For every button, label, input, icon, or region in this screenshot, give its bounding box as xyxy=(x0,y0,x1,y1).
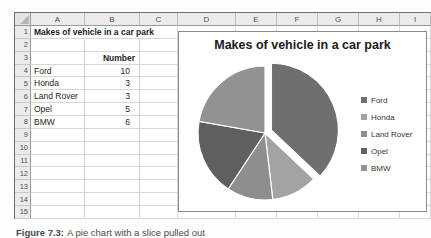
cell-B3[interactable]: Number xyxy=(85,52,140,65)
row-header-10[interactable]: 10 xyxy=(15,142,31,155)
legend-label: BMW xyxy=(371,164,391,173)
cell-A14[interactable] xyxy=(31,193,85,206)
row-header-2[interactable]: 2 xyxy=(15,39,31,52)
cell-A8[interactable]: BMW xyxy=(31,116,85,129)
cell-C3[interactable] xyxy=(140,52,178,65)
chart-legend[interactable]: FordHondaLand RoverOpelBMW xyxy=(361,96,412,172)
select-all-corner[interactable] xyxy=(15,13,31,26)
cell-B15[interactable] xyxy=(85,206,140,219)
row-header-5[interactable]: 5 xyxy=(15,77,31,90)
cell-C8[interactable] xyxy=(140,116,178,129)
legend-item-ford[interactable]: Ford xyxy=(361,96,412,104)
pie-slice-bmw[interactable] xyxy=(199,66,265,133)
cell-C5[interactable] xyxy=(140,77,178,90)
legend-swatch-icon xyxy=(361,131,367,137)
cell-B5[interactable]: 3 xyxy=(85,77,140,90)
cell-C10[interactable] xyxy=(140,142,178,155)
chart-object[interactable]: Makes of vehicle in a car park FordHonda… xyxy=(178,31,427,212)
legend-swatch-icon xyxy=(361,165,367,171)
column-header-D[interactable]: D xyxy=(178,13,236,26)
cell-B7[interactable]: 5 xyxy=(85,103,140,116)
row-header-9[interactable]: 9 xyxy=(15,129,31,142)
cell-B8[interactable]: 6 xyxy=(85,116,140,129)
row-header-14[interactable]: 14 xyxy=(15,193,31,206)
legend-item-land-rover[interactable]: Land Rover xyxy=(361,130,412,138)
cell-C11[interactable] xyxy=(140,155,178,168)
cell-B10[interactable] xyxy=(85,142,140,155)
column-header-F[interactable]: F xyxy=(277,13,318,26)
cell-B4[interactable]: 10 xyxy=(85,65,140,78)
cell-C12[interactable] xyxy=(140,167,178,180)
figure-caption-number: Figure 7.3: xyxy=(16,227,64,238)
cell-A7[interactable]: Opel xyxy=(31,103,85,116)
cell-C13[interactable] xyxy=(140,180,178,193)
cell-A10[interactable] xyxy=(31,142,85,155)
cell-A12[interactable] xyxy=(31,167,85,180)
cell-C4[interactable] xyxy=(140,65,178,78)
figure-caption-text: A pie chart with a slice pulled out xyxy=(67,227,205,238)
column-header-B[interactable]: B xyxy=(85,13,140,26)
row-header-7[interactable]: 7 xyxy=(15,103,31,116)
column-header-I[interactable]: I xyxy=(400,13,431,26)
row-header-8[interactable]: 8 xyxy=(15,116,31,129)
row-header-13[interactable]: 13 xyxy=(15,180,31,193)
column-header-H[interactable]: H xyxy=(359,13,400,26)
cell-B6[interactable]: 3 xyxy=(85,90,140,103)
legend-label: Honda xyxy=(371,113,395,122)
legend-swatch-icon xyxy=(361,97,367,103)
legend-label: Opel xyxy=(371,147,388,156)
cell-B12[interactable] xyxy=(85,167,140,180)
legend-swatch-icon xyxy=(361,114,367,120)
figure-caption: Figure 7.3:A pie chart with a slice pull… xyxy=(16,227,205,238)
row-header-6[interactable]: 6 xyxy=(15,90,31,103)
row-header-3[interactable]: 3 xyxy=(15,52,31,65)
column-header-A[interactable]: A xyxy=(31,13,85,26)
legend-item-bmw[interactable]: BMW xyxy=(361,164,412,172)
cell-A5[interactable]: Honda xyxy=(31,77,85,90)
legend-item-opel[interactable]: Opel xyxy=(361,147,412,155)
cell-A9[interactable] xyxy=(31,129,85,142)
legend-swatch-icon xyxy=(361,148,367,154)
cell-C14[interactable] xyxy=(140,193,178,206)
cell-A1[interactable]: Makes of vehicle in a car park xyxy=(31,26,178,39)
row-header-1[interactable]: 1 xyxy=(15,26,31,39)
row-header-15[interactable]: 15 xyxy=(15,206,31,219)
cell-A11[interactable] xyxy=(31,155,85,168)
column-header-G[interactable]: G xyxy=(318,13,359,26)
cell-C9[interactable] xyxy=(140,129,178,142)
row-header-11[interactable]: 11 xyxy=(15,155,31,168)
row-header-12[interactable]: 12 xyxy=(15,167,31,180)
cell-C2[interactable] xyxy=(140,39,178,52)
cell-B13[interactable] xyxy=(85,180,140,193)
select-all-triangle-icon xyxy=(20,15,29,24)
legend-item-honda[interactable]: Honda xyxy=(361,113,412,121)
column-header-C[interactable]: C xyxy=(140,13,178,26)
cell-A15[interactable] xyxy=(31,206,85,219)
row-header-4[interactable]: 4 xyxy=(15,65,31,78)
legend-label: Ford xyxy=(371,96,387,105)
cell-C6[interactable] xyxy=(140,90,178,103)
cell-C15[interactable] xyxy=(140,206,178,219)
cell-B14[interactable] xyxy=(85,193,140,206)
cell-A2[interactable] xyxy=(31,39,85,52)
cell-B11[interactable] xyxy=(85,155,140,168)
cell-A6[interactable]: Land Rover xyxy=(31,90,85,103)
cell-B9[interactable] xyxy=(85,129,140,142)
cell-A4[interactable]: Ford xyxy=(31,65,85,78)
cell-B2[interactable] xyxy=(85,39,140,52)
column-header-E[interactable]: E xyxy=(236,13,277,26)
legend-label: Land Rover xyxy=(371,130,412,139)
cell-A3[interactable] xyxy=(31,52,85,65)
cell-C7[interactable] xyxy=(140,103,178,116)
cell-A13[interactable] xyxy=(31,180,85,193)
